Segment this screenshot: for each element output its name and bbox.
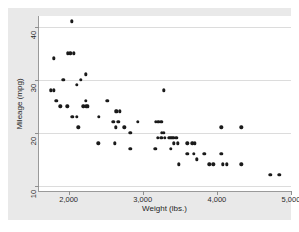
scatter-point [117, 120, 120, 123]
scatter-point [162, 89, 165, 92]
scatter-point [118, 110, 121, 113]
scatter-point [240, 126, 243, 129]
scatter-point [52, 89, 55, 92]
gridline-y [39, 27, 291, 28]
scatter-point [59, 104, 62, 107]
y-axis-tick-label: 30 [30, 80, 38, 96]
screenshot-root: 102030402,0003,0004,0005,000 Mileage (mp… [0, 0, 299, 232]
x-axis-tick-label: 2,000 [59, 195, 78, 204]
scatter-point [174, 136, 177, 139]
gridline-y [39, 133, 291, 134]
plot-area: 102030402,0003,0004,0005,000 [38, 16, 291, 192]
scatter-point [211, 163, 214, 166]
scatter-point [163, 136, 166, 139]
scatter-point [84, 99, 87, 102]
scatter-point [128, 147, 131, 150]
scatter-point [193, 142, 196, 145]
scatter-point [113, 142, 116, 145]
scatter-point [52, 57, 55, 60]
y-axis-title-text: Mileage (mpg) [15, 78, 24, 129]
scatter-point [169, 147, 172, 150]
scatter-point [72, 51, 75, 54]
scatter-point [128, 131, 131, 134]
x-axis-title: Weight (lbs.) [38, 204, 291, 213]
scatter-point [195, 157, 198, 160]
scatter-point [70, 20, 73, 23]
scatter-point [269, 173, 272, 176]
caption-remnant [0, 0, 299, 7]
scatter-point [160, 120, 163, 123]
stata-graph-region: 102030402,0003,0004,0005,000 Mileage (mp… [8, 8, 291, 220]
scatter-point [111, 120, 114, 123]
scatter-point [203, 152, 206, 155]
y-axis-tick-label: 20 [30, 133, 38, 149]
scatter-point [79, 78, 82, 81]
y-axis-tick-label: 10 [30, 186, 38, 202]
scatter-point [75, 83, 78, 86]
scatter-point [186, 142, 189, 145]
scatter-point [220, 126, 223, 129]
scatter-point [176, 142, 179, 145]
scatter-point [75, 115, 78, 118]
y-axis-title: Mileage (mpg) [14, 16, 24, 192]
scatter-point [277, 173, 280, 176]
x-axis-tick-label: 5,000 [282, 195, 299, 204]
scatter-point [154, 147, 157, 150]
scatter-point [114, 126, 117, 129]
scatter-point [77, 126, 80, 129]
scatter-point [156, 136, 159, 139]
scatter-point [65, 104, 68, 107]
scatter-point [97, 115, 100, 118]
scatter-point [220, 152, 223, 155]
scatter-point [136, 120, 139, 123]
scatter-point [86, 104, 89, 107]
gridline-y [39, 80, 291, 81]
scatter-point [105, 99, 108, 102]
gridline-y [39, 186, 291, 187]
graph-inner: 102030402,0003,0004,0005,000 Mileage (mp… [8, 8, 291, 220]
scatter-point [192, 152, 195, 155]
scatter-point [225, 163, 228, 166]
scatter-point [62, 78, 65, 81]
scatter-point [84, 73, 87, 76]
x-axis-tick-label: 4,000 [207, 195, 226, 204]
scatter-point [186, 152, 189, 155]
y-axis-tick-label: 40 [30, 27, 38, 43]
scatter-point [240, 163, 243, 166]
scatter-point [97, 142, 100, 145]
x-axis-tick-label: 3,000 [133, 195, 152, 204]
scatter-point [71, 115, 74, 118]
scatter-point [123, 126, 126, 129]
scatter-point [177, 163, 180, 166]
scatter-point [55, 99, 58, 102]
scatter-point [162, 131, 165, 134]
